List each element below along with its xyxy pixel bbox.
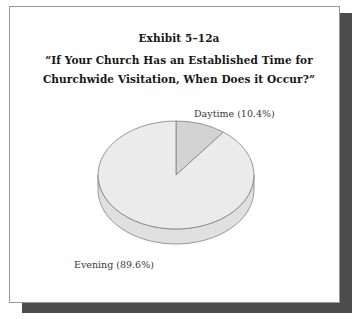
pie-top-faces bbox=[98, 121, 254, 229]
pie-label-evening: Evening (89.6%) bbox=[74, 259, 154, 270]
chart-title-line-1: “If Your Church Has an Established Time … bbox=[0, 51, 358, 70]
title-block: Exhibit 5–12a “If Your Church Has an Est… bbox=[0, 31, 358, 89]
pie-chart-svg bbox=[88, 116, 264, 258]
pie-chart bbox=[88, 116, 264, 258]
chart-title-line-2: Churchwide Visitation, When Does it Occu… bbox=[0, 70, 358, 89]
pie-slice-evening[interactable] bbox=[98, 121, 254, 229]
figure-page: Exhibit 5–12a “If Your Church Has an Est… bbox=[0, 0, 358, 319]
exhibit-number: Exhibit 5–12a bbox=[0, 31, 358, 46]
